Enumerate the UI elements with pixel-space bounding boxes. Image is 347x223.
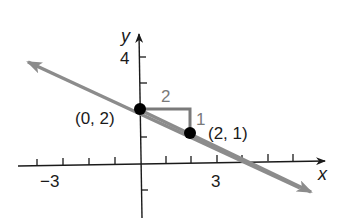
run-label: 2	[161, 87, 170, 106]
coordinate-plane: y x 4 −3 3 (0, 2) (2, 1) 2 1	[0, 0, 347, 223]
tick-label-neg3: −3	[40, 172, 59, 191]
point-2-1	[184, 127, 196, 139]
tick-label-4: 4	[120, 49, 129, 68]
x-axis-label: x	[317, 164, 328, 184]
rise-label: 1	[196, 110, 205, 129]
point-label-2-1: (2, 1)	[208, 124, 248, 143]
y-axis-label: y	[119, 26, 131, 46]
tick-label-3: 3	[211, 172, 220, 191]
x-axis	[18, 161, 325, 166]
graph-line-arrow-right	[140, 110, 311, 192]
point-0-2	[134, 103, 146, 115]
point-label-0-2: (0, 2)	[75, 109, 115, 128]
